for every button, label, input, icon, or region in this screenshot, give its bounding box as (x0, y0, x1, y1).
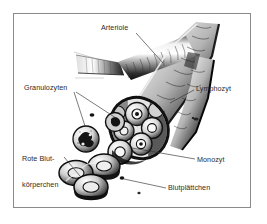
red-blood-cell-stack (59, 154, 120, 200)
label-rote-line-2: körperchen (22, 181, 58, 190)
label-arteriole: Arteriole (101, 24, 128, 33)
figure-container: Arteriole Granulozyten Rote Blut- körper… (0, 0, 267, 224)
label-blutplaettchen: Blutplättchen (168, 184, 210, 193)
label-rote-blutkoerperchen: Rote Blut- körperchen (22, 138, 58, 207)
label-monozyt: Monozyt (197, 156, 225, 165)
label-granulozyten: Granulozyten (24, 84, 67, 93)
capillary-branch (74, 52, 124, 78)
granulocyte-cell (73, 126, 99, 152)
label-rote-line-1: Rote Blut- (22, 155, 58, 164)
label-lymphozyt: Lymphozyt (196, 85, 231, 94)
